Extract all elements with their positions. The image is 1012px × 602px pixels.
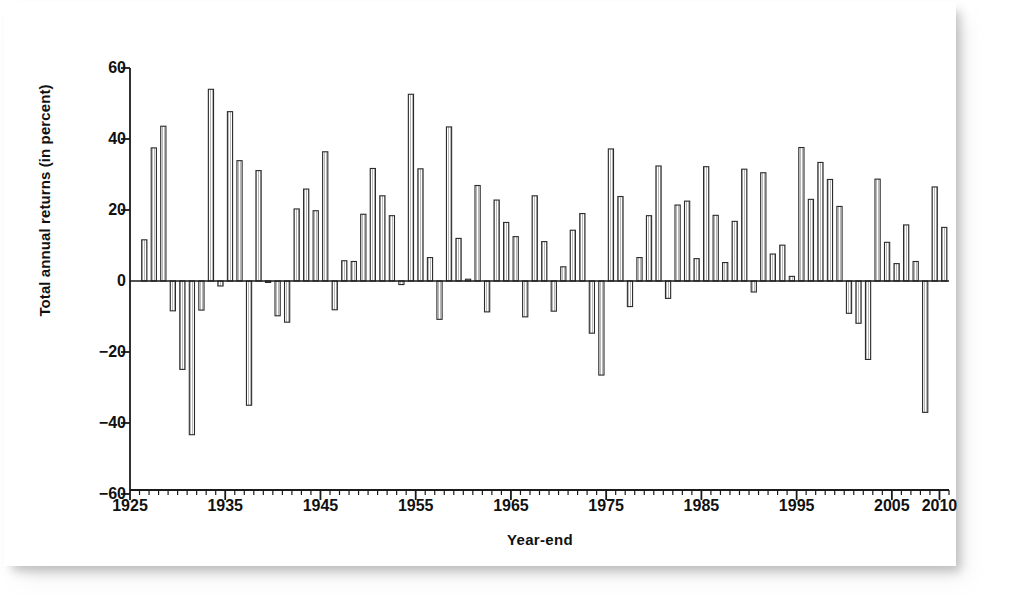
bar [837,206,842,281]
bar [418,169,423,281]
x-tick-label: 1925 [112,497,148,515]
bar [827,179,832,281]
bar [294,209,299,281]
x-tick-label: 1935 [207,497,243,515]
y-tick-label: 0 [68,272,126,290]
bar [742,169,747,281]
bar [580,214,585,281]
bar [694,259,699,281]
bar [875,179,880,281]
bar [504,222,509,281]
bar [408,94,413,281]
y-tick-label: −20 [68,343,126,361]
bar [485,281,490,312]
x-tick-label: 1985 [684,497,720,515]
bar [856,281,861,323]
bar [799,148,804,281]
bar [808,199,813,281]
bar [304,189,309,281]
bar [589,281,594,333]
bar [437,281,442,319]
bar [637,258,642,281]
bar [627,281,632,307]
bar [351,261,356,281]
y-tick-label: 60 [68,59,126,77]
bar [427,258,432,281]
x-tick-label: 2005 [874,497,910,515]
bar [599,281,604,375]
bar [542,242,547,281]
bar [551,281,556,311]
x-tick-label: 1945 [303,497,339,515]
bar [665,281,670,298]
bar [161,126,166,281]
bar [770,254,775,281]
bar [523,281,528,317]
bar [780,245,785,281]
y-tick-label: −40 [68,414,126,432]
bar [494,200,499,281]
y-tick-label: 40 [68,130,126,148]
bar [246,281,251,405]
bar [180,281,185,369]
bars-layer [142,89,947,434]
bar [894,264,899,281]
bar [846,281,851,313]
x-tick-label: 2010 [922,497,958,515]
x-tick-label: 1965 [493,497,529,515]
bar [456,238,461,281]
bar [313,211,318,281]
x-tick-label: 1955 [398,497,434,515]
bar [170,281,175,311]
bar [237,161,242,281]
bar [208,89,213,281]
bar [199,281,204,310]
bar [932,187,937,281]
bar [532,196,537,281]
bar [446,127,451,281]
bar [189,281,194,435]
bar [389,216,394,281]
bar [942,227,947,281]
bar [923,281,928,412]
bar [713,215,718,281]
chart-figure: Total annual returns (in percent) Year-e… [0,0,1012,602]
bar [618,197,623,281]
bar [256,171,261,281]
bar [380,196,385,281]
bar [323,152,328,281]
bar [885,242,890,281]
bar [913,261,918,281]
bar [275,281,280,316]
bar [904,225,909,281]
bar [732,221,737,281]
x-tick-label: 1995 [779,497,815,515]
bar [656,166,661,281]
bar [761,173,766,281]
bar [332,281,337,310]
y-tick-label: 20 [68,201,126,219]
bar [723,263,728,281]
bar [361,214,366,281]
bar [675,205,680,281]
bar [151,148,156,281]
axes-layer [121,68,949,500]
bar [370,168,375,281]
bar [865,281,870,359]
bar [342,261,347,281]
page-root: Total annual returns (in percent) Year-e… [0,0,1012,602]
y-axis-title: Total annual returns (in percent) [36,21,53,381]
bar [142,240,147,281]
bar [475,186,480,282]
bar [818,162,823,281]
bar [227,112,232,281]
x-axis-title: Year-end [130,531,950,548]
bar [513,237,518,281]
bar [561,267,566,281]
bar [285,281,290,322]
bar [704,167,709,281]
bar [646,216,651,281]
bar [685,201,690,281]
bar [751,281,756,292]
x-tick-label: 1975 [588,497,624,515]
